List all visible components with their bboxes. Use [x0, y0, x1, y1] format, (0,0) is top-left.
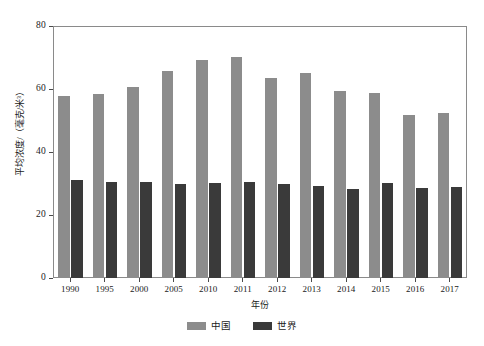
bar-中国-2017	[438, 113, 450, 278]
y-axis-tick-mark	[49, 26, 53, 27]
x-axis: 年份 1990199520002005201020112012201320142…	[53, 278, 467, 318]
bars-layer	[53, 26, 467, 278]
x-axis-tick-mark	[449, 278, 450, 282]
bar-世界-2016	[416, 188, 428, 278]
x-axis-tick-mark	[277, 278, 278, 282]
x-axis-tick-mark	[70, 278, 71, 282]
bar-中国-2011	[231, 57, 243, 278]
x-axis-tick-mark	[208, 278, 209, 282]
y-axis-tick-label: 80	[36, 19, 46, 31]
legend-swatch-icon	[253, 322, 272, 330]
bar-中国-2015	[369, 93, 381, 278]
x-axis-tick-mark	[415, 278, 416, 282]
bar-中国-2014	[334, 91, 346, 278]
y-axis-tick-mark	[49, 215, 53, 216]
legend-label: 世界	[277, 320, 297, 332]
bar-世界-1990	[71, 180, 83, 278]
bar-中国-2005	[162, 71, 174, 278]
bar-世界-2005	[175, 184, 187, 279]
legend-swatch-icon	[187, 322, 206, 330]
bar-中国-1990	[58, 96, 70, 278]
bar-世界-2012	[278, 184, 290, 278]
y-axis-tick-mark	[49, 152, 53, 153]
legend-label: 中国	[211, 320, 231, 332]
bar-中国-2016	[403, 115, 415, 278]
bar-中国-2010	[196, 60, 208, 278]
chart-legend: 中国世界	[0, 320, 484, 332]
bar-世界-2011	[244, 182, 256, 278]
bar-世界-2017	[451, 187, 463, 278]
x-axis-tick-mark	[346, 278, 347, 282]
bar-中国-2000	[127, 87, 139, 278]
x-axis-tick-mark	[104, 278, 105, 282]
x-axis-tick-mark	[242, 278, 243, 282]
bar-世界-2010	[209, 183, 221, 278]
y-axis-tick-label: 20	[36, 208, 46, 220]
legend-entry-中国: 中国	[187, 320, 231, 332]
x-axis-tick-mark	[311, 278, 312, 282]
x-axis-tick-label: 2017	[430, 284, 470, 295]
y-axis-tick-label: 60	[36, 82, 46, 94]
y-axis-tick-label: 0	[41, 271, 46, 283]
bar-世界-2015	[382, 183, 394, 278]
bar-世界-1995	[106, 182, 118, 278]
y-axis-tick-label: 40	[36, 145, 46, 157]
bar-中国-2013	[300, 73, 312, 278]
y-axis-title: 平均浓度/（毫克/米³）	[15, 52, 26, 212]
bar-中国-1995	[93, 94, 105, 278]
bar-中国-2012	[265, 78, 277, 278]
legend-entry-世界: 世界	[253, 320, 297, 332]
x-axis-tick-mark	[139, 278, 140, 282]
y-axis: 平均浓度/（毫克/米³） 020406080	[0, 0, 53, 346]
chart-figure: 平均浓度/（毫克/米³） 020406080 年份 19901995200020…	[0, 0, 484, 346]
x-axis-tick-mark	[380, 278, 381, 282]
bar-世界-2000	[140, 182, 152, 278]
bar-世界-2013	[313, 186, 325, 278]
x-axis-tick-mark	[173, 278, 174, 282]
y-axis-tick-mark	[49, 89, 53, 90]
x-axis-title: 年份	[53, 300, 467, 311]
bar-世界-2014	[347, 189, 359, 278]
